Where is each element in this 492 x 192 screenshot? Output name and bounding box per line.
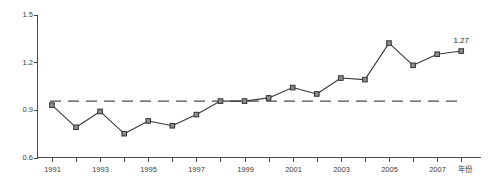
series-line-1 (52, 43, 461, 134)
y-tick-label-1_2: 1.2 (23, 58, 33, 67)
data-point-marker (50, 103, 55, 108)
x-tick-label: 1999 (237, 165, 254, 174)
line-chart: 1.5 1.2 0.9 0.6 199119931995199719992001… (0, 0, 492, 192)
data-point-marker (290, 85, 295, 90)
y-tick-label-1_5: 1.5 (23, 10, 33, 19)
data-point-marker (459, 49, 464, 54)
data-point-marker (363, 77, 368, 82)
data-point-marker (339, 76, 344, 81)
data-point-marker (387, 41, 392, 46)
data-point-marker (98, 109, 103, 114)
x-tick-label: 1993 (92, 165, 109, 174)
y-tick-label-0_9: 0.9 (23, 105, 33, 114)
x-tick-label: 2007 (429, 165, 446, 174)
data-point-marker (146, 119, 151, 124)
x-tick-label: 1991 (44, 165, 61, 174)
data-point-marker (122, 131, 127, 136)
data-point-marker (218, 99, 223, 104)
last-point-value-label: 1.27 (453, 36, 469, 45)
data-point-marker (170, 123, 175, 128)
x-tick-label: 1995 (140, 165, 157, 174)
chart-container: 1.5 1.2 0.9 0.6 199119931995199719992001… (0, 0, 492, 192)
y-axis-ticks (34, 16, 38, 159)
data-point-marker (411, 63, 416, 68)
data-point-marker (435, 52, 440, 57)
x-tick-label: 2001 (285, 165, 302, 174)
data-point-marker (74, 125, 79, 130)
data-point-marker (266, 96, 271, 101)
data-point-marker (242, 99, 247, 104)
data-point-marker (314, 92, 319, 97)
y-axis-tick-labels: 1.5 1.2 0.9 0.6 (23, 10, 33, 162)
x-tick-label: 1997 (188, 165, 205, 174)
x-tick-label: 2003 (333, 165, 350, 174)
x-axis-tick-labels: 199119931995199719992001200320052007 (44, 165, 446, 174)
y-tick-label-0_6: 0.6 (23, 153, 33, 162)
x-axis-ticks (53, 158, 462, 162)
x-axis-title: 年份 (458, 164, 473, 174)
data-point-marker (194, 112, 199, 117)
axes-group (38, 15, 481, 158)
x-tick-label: 2005 (381, 165, 398, 174)
